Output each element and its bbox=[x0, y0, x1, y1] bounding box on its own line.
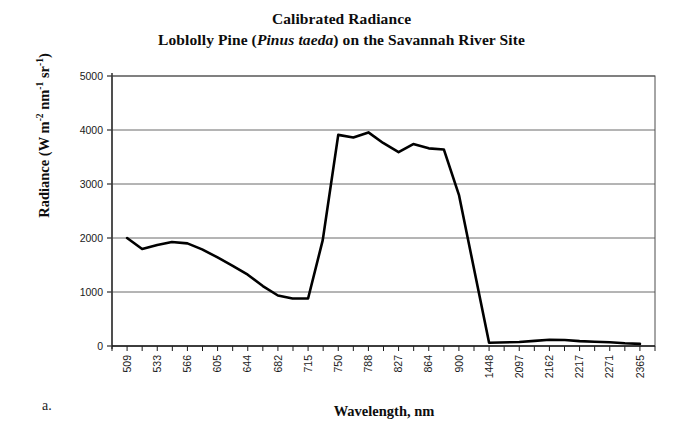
x-axis-tick-label: 533 bbox=[151, 355, 163, 373]
x-axis-tick-label: 2271 bbox=[603, 355, 615, 379]
figure-container: Calibrated Radiance Loblolly Pine (Pinus… bbox=[0, 0, 683, 443]
x-axis-tick-label: 1448 bbox=[483, 355, 495, 379]
x-axis-tick-label: 2097 bbox=[513, 355, 525, 379]
x-axis-tick-label: 682 bbox=[272, 355, 284, 373]
x-axis-tick-label: 2217 bbox=[573, 355, 585, 379]
x-axis-tick-label: 509 bbox=[121, 355, 133, 373]
y-axis-tick-label: 5000 bbox=[80, 70, 104, 82]
y-axis-tick-label: 2000 bbox=[80, 232, 104, 244]
x-axis-tick-label: 900 bbox=[453, 355, 465, 373]
x-axis-ticks bbox=[112, 346, 655, 351]
radiance-line-chart: 010002000300040005000 509533566605644682… bbox=[0, 0, 683, 443]
x-axis-tick-label: 715 bbox=[302, 355, 314, 373]
x-axis-tick-label: 788 bbox=[362, 355, 374, 373]
x-axis-tick-label: 2365 bbox=[634, 355, 646, 379]
x-axis-tick-label: 2162 bbox=[543, 355, 555, 379]
x-axis-tick-label: 750 bbox=[332, 355, 344, 373]
x-axis-tick-label: 566 bbox=[181, 355, 193, 373]
y-axis-tick-label: 0 bbox=[97, 340, 103, 352]
plot-border bbox=[112, 76, 655, 346]
x-axis-tick-label: 605 bbox=[211, 355, 223, 373]
gridlines bbox=[112, 76, 655, 292]
x-axis-title: Wavelength, nm bbox=[112, 403, 656, 420]
y-axis-tick-label: 4000 bbox=[80, 124, 104, 136]
plot-frame bbox=[112, 73, 655, 349]
y-axis-tick-label: 1000 bbox=[80, 286, 104, 298]
x-axis-tick-labels: 5095335666056446827157507888278649001448… bbox=[121, 355, 646, 379]
plot-area: 010002000300040005000 509533566605644682… bbox=[0, 0, 683, 443]
y-axis-tick-label: 3000 bbox=[80, 178, 104, 190]
figure-caption-label: a. bbox=[42, 398, 52, 414]
x-axis-tick-label: 644 bbox=[241, 355, 253, 373]
y-axis-tick-labels: 010002000300040005000 bbox=[80, 70, 104, 352]
x-axis-tick-label: 827 bbox=[392, 355, 404, 373]
x-axis-tick-label: 864 bbox=[422, 355, 434, 373]
